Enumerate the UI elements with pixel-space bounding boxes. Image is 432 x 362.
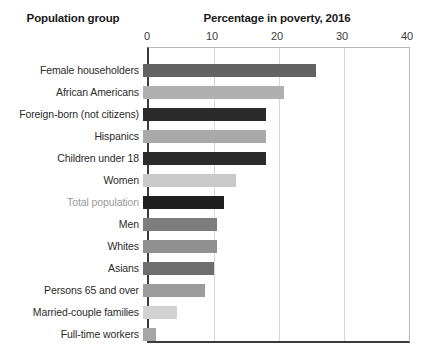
bar (143, 174, 236, 187)
x-tick-30: 30 (336, 30, 348, 42)
chart-row: Married-couple families (0, 301, 432, 323)
bar-track (143, 191, 429, 213)
chart-rows: Female householdersAfrican AmericansFore… (0, 47, 432, 340)
bar-track (143, 257, 429, 279)
category-label: Foreign-born (not citizens) (0, 108, 143, 120)
bar-track (143, 81, 429, 103)
bar (143, 196, 224, 209)
category-label: Whites (0, 240, 143, 252)
bar-track (143, 213, 429, 235)
x-tick-10: 10 (206, 30, 218, 42)
bar-track (143, 301, 429, 323)
bar (143, 262, 214, 275)
chart-row: Women (0, 169, 432, 191)
category-label: Men (0, 218, 143, 230)
bar-track (143, 169, 429, 191)
chart-row: Hispanics (0, 125, 432, 147)
category-label: Persons 65 and over (0, 284, 143, 296)
bar-track (143, 59, 429, 81)
x-tick-0: 0 (144, 30, 150, 42)
chart-row: Total population (0, 191, 432, 213)
bar (143, 284, 205, 297)
category-label: African Americans (0, 86, 143, 98)
bar (143, 306, 177, 319)
x-axis-tick-labels: 010203040 (0, 30, 432, 46)
category-label: Asians (0, 262, 143, 274)
x-tick-40: 40 (401, 30, 413, 42)
bar (143, 130, 266, 143)
chart-row: Full-time workers (0, 323, 432, 345)
bar-track (143, 279, 429, 301)
chart-row: Persons 65 and over (0, 279, 432, 301)
bar (143, 240, 217, 253)
bar-track (143, 147, 429, 169)
chart-row: Children under 18 (0, 147, 432, 169)
bar-track (143, 125, 429, 147)
category-label: Married-couple families (0, 306, 143, 318)
percentage-in-poverty-header: Percentage in poverty, 2016 (147, 12, 407, 24)
category-label: Women (0, 174, 143, 186)
chart-row: Foreign-born (not citizens) (0, 103, 432, 125)
bar-track (143, 235, 429, 257)
x-tick-20: 20 (271, 30, 283, 42)
bar (143, 108, 266, 121)
bar (143, 64, 316, 77)
bar (143, 218, 217, 231)
bar-track (143, 323, 429, 345)
poverty-bar-chart-figure: Population group Percentage in poverty, … (0, 0, 432, 362)
bar (143, 86, 284, 99)
bar-track (143, 103, 429, 125)
chart-row: Whites (0, 235, 432, 257)
chart-row: Female householders (0, 59, 432, 81)
bar (143, 328, 156, 341)
chart-row: Men (0, 213, 432, 235)
category-label: Full-time workers (0, 328, 143, 340)
bar (143, 152, 266, 165)
population-group-header: Population group (0, 12, 146, 24)
category-label: Children under 18 (0, 152, 143, 164)
category-label: Hispanics (0, 130, 143, 142)
chart-row: Asians (0, 257, 432, 279)
category-label: Female householders (0, 64, 143, 76)
category-label: Total population (0, 196, 143, 208)
chart-row: African Americans (0, 81, 432, 103)
